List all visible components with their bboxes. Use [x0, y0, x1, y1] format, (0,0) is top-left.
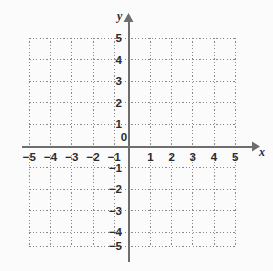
origin-label: 0: [114, 132, 134, 144]
y-axis-label: y: [117, 10, 122, 22]
y-axis-arrowhead: [124, 13, 134, 22]
y-tick-label-neg1: −1: [102, 163, 122, 175]
y-tick-label-4: 4: [102, 55, 122, 67]
x-tick-label-2: 2: [162, 152, 182, 164]
x-tick-label-neg5: −5: [19, 152, 39, 164]
y-tick-label-neg2: −2: [102, 184, 122, 196]
plane-graphics: [0, 0, 273, 271]
y-tick-label-5: 5: [102, 33, 122, 45]
y-tick-label-3: 3: [102, 76, 122, 88]
x-tick-label-neg2: −2: [83, 152, 103, 164]
y-tick-label-1: 1: [102, 119, 122, 131]
x-tick-label-neg4: −4: [41, 152, 61, 164]
axis-lines: [22, 16, 252, 262]
coordinate-plane: y x −5 −4 −3 −2 −1 0 1 2 3 4 5 5 4 3 2 1…: [0, 0, 273, 271]
x-tick-label-3: 3: [183, 152, 203, 164]
y-tick-label-neg5: −5: [102, 241, 122, 253]
x-axis-label: x: [259, 146, 265, 158]
y-tick-label-neg3: −3: [102, 206, 122, 218]
y-tick-label-2: 2: [102, 98, 122, 110]
x-tick-label-1: 1: [140, 152, 160, 164]
x-tick-label-5: 5: [225, 152, 245, 164]
x-tick-label-neg3: −3: [62, 152, 82, 164]
y-tick-label-neg4: −4: [102, 227, 122, 239]
x-tick-label-4: 4: [204, 152, 224, 164]
